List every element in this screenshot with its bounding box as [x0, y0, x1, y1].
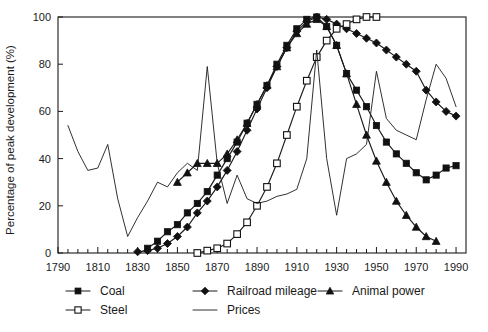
marker-filled-triangle	[382, 178, 390, 185]
x-axis-tick-labels: 1790181018301850187018901910193019501970…	[46, 261, 469, 273]
marker-filled-square	[383, 139, 389, 145]
x-tick-label: 1850	[165, 261, 189, 273]
marker-open-square	[194, 250, 201, 257]
marker-filled-square	[75, 288, 81, 294]
marker-open-square	[264, 184, 271, 191]
marker-filled-triangle	[432, 237, 440, 244]
y-tick-label: 40	[39, 153, 51, 165]
y-axis-ticks	[58, 17, 63, 253]
marker-filled-diamond	[201, 287, 209, 295]
legend-entry-prices[interactable]: Prices	[193, 303, 260, 317]
marker-filled-diamond	[412, 67, 420, 75]
x-tick-label: 1890	[245, 261, 269, 273]
marker-filled-diamond	[382, 46, 390, 54]
legend-entry-animal-power[interactable]: Animal power	[318, 284, 425, 298]
marker-filled-square	[403, 160, 409, 166]
y-tick-label: 0	[45, 247, 51, 259]
marker-filled-square	[154, 238, 160, 244]
marker-filled-diamond	[163, 240, 171, 248]
legend-label: Coal	[100, 284, 125, 298]
marker-open-square	[234, 231, 241, 238]
marker-filled-diamond	[362, 34, 370, 42]
x-tick-label: 1870	[205, 261, 229, 273]
marker-open-square	[303, 77, 310, 84]
x-tick-label: 1970	[404, 261, 428, 273]
marker-filled-triangle	[392, 197, 400, 204]
series-line	[68, 50, 456, 236]
marker-filled-diamond	[372, 39, 380, 47]
marker-filled-square	[164, 229, 170, 235]
marker-filled-square	[194, 200, 200, 206]
marker-filled-square	[423, 177, 429, 183]
legend-label: Animal power	[352, 284, 425, 298]
marker-filled-square	[373, 122, 379, 128]
marker-open-square	[244, 219, 251, 226]
marker-filled-square	[174, 222, 180, 228]
data-series-layer	[68, 13, 460, 256]
marker-filled-diamond	[134, 248, 142, 256]
x-tick-label: 1950	[364, 261, 388, 273]
y-axis-title: Percentage of peak development (%)	[4, 45, 16, 235]
marker-filled-square	[433, 172, 439, 178]
x-tick-label: 1810	[86, 261, 110, 273]
legend-entry-coal[interactable]: Coal	[66, 284, 125, 298]
marker-filled-triangle	[402, 211, 410, 218]
y-tick-label: 60	[39, 105, 51, 117]
x-tick-label: 1930	[324, 261, 348, 273]
marker-open-square	[373, 14, 380, 21]
marker-filled-diamond	[452, 112, 460, 120]
series-prices	[68, 50, 456, 236]
x-tick-label: 1790	[46, 261, 70, 273]
marker-filled-square	[184, 210, 190, 216]
marker-filled-diamond	[233, 148, 241, 156]
marker-filled-diamond	[213, 183, 221, 191]
legend-entry-steel[interactable]: Steel	[66, 303, 127, 317]
marker-filled-square	[204, 189, 210, 195]
marker-filled-triangle	[363, 131, 371, 138]
legend-label: Steel	[100, 303, 127, 317]
marker-filled-square	[453, 163, 459, 169]
marker-filled-square	[393, 151, 399, 157]
marker-open-square	[75, 307, 81, 313]
series-coal	[144, 14, 459, 251]
marker-filled-diamond	[392, 53, 400, 61]
marker-filled-square	[413, 170, 419, 176]
chart-figure: Percentage of peak development (%) 02040…	[0, 0, 488, 332]
marker-filled-square	[353, 87, 359, 93]
legend-label: Prices	[227, 303, 260, 317]
marker-open-square	[333, 26, 340, 33]
marker-filled-triangle	[373, 157, 381, 164]
x-tick-label: 1830	[125, 261, 149, 273]
marker-filled-square	[443, 165, 449, 171]
x-tick-label: 1910	[285, 261, 309, 273]
marker-filled-diamond	[223, 166, 231, 174]
marker-open-square	[204, 247, 211, 254]
y-tick-label: 80	[39, 58, 51, 70]
line-chart: Percentage of peak development (%) 02040…	[0, 0, 488, 332]
y-axis-title-text: Percentage of peak development (%)	[4, 45, 16, 235]
marker-open-square	[274, 160, 281, 167]
marker-filled-diamond	[402, 60, 410, 68]
marker-filled-diamond	[353, 30, 361, 38]
y-tick-label: 20	[39, 200, 51, 212]
legend-entry-railroad-mileage[interactable]: Railroad mileage	[193, 284, 317, 298]
marker-open-square	[224, 240, 231, 247]
x-tick-label: 1990	[444, 261, 468, 273]
marker-open-square	[323, 37, 330, 44]
legend-label: Railroad mileage	[227, 284, 317, 298]
marker-open-square	[284, 132, 291, 139]
chart-legend: CoalRailroad mileageAnimal powerSteelPri…	[66, 284, 425, 317]
marker-open-square	[214, 245, 221, 252]
marker-open-square	[343, 21, 350, 28]
y-axis-tick-labels: 020406080100	[33, 11, 51, 259]
y-tick-label: 100	[33, 11, 51, 23]
marker-open-square	[294, 103, 301, 110]
marker-filled-diamond	[154, 244, 162, 252]
marker-filled-square	[363, 104, 369, 110]
marker-filled-triangle	[353, 100, 361, 107]
marker-open-square	[363, 14, 370, 21]
marker-open-square	[353, 16, 360, 23]
x-axis-ticks	[58, 247, 456, 253]
